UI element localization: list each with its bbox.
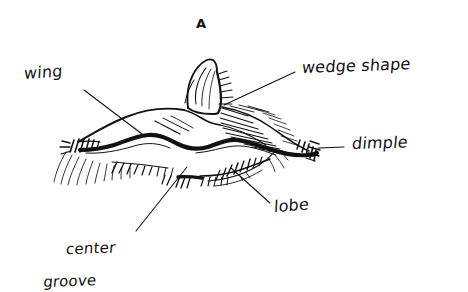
label-lobe: lobe [274,197,310,216]
leader-line-lobe [231,168,270,203]
figure-title: A [196,17,207,30]
label-wing: wing [24,63,63,82]
label-dimple: dimple [351,135,408,153]
leader-line-wing [84,90,142,134]
leader-line-wedge-shape [224,72,295,105]
leader-line-center-groove [136,167,187,231]
lower-left-texture [54,152,130,185]
dimple-line [80,135,317,155]
label-center-groove-line1: center [65,239,116,259]
leader-line-dimple [318,147,344,148]
label-center-groove-line2: groove [43,272,114,290]
figure-container: A wing wedge shape dimple lobe center gr… [0,0,468,292]
wedge-shape-drawing [185,59,221,114]
label-center-groove: center groove [40,225,117,292]
lobe-drawing [200,150,276,186]
label-wedge-shape: wedge shape [301,56,411,76]
